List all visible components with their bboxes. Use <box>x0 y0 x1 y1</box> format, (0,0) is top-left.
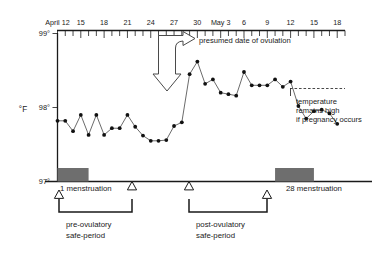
data-point <box>195 60 199 64</box>
post-ovulatory-start-marker-icon <box>184 182 193 190</box>
data-point <box>157 139 161 143</box>
data-point <box>71 129 75 133</box>
x-tick-label: 15 <box>310 18 318 27</box>
y-axis <box>53 33 58 182</box>
x-tick-label: 6 <box>242 18 246 27</box>
data-point <box>219 91 223 95</box>
x-tick-label: 18 <box>100 18 108 27</box>
x-tick-label: 30 <box>193 18 201 27</box>
data-point <box>133 125 137 129</box>
post-ovulatory-label-line1: post-ovulatory <box>196 220 245 229</box>
data-point <box>126 113 130 117</box>
menstruation-label-left: 1 menstruation <box>60 184 112 193</box>
data-point <box>258 83 262 87</box>
data-point <box>87 133 91 137</box>
ovulation-annotation-label: presumed date of ovulation <box>199 36 291 45</box>
x-tick-label: 18 <box>333 18 341 27</box>
pregnancy-note-leader <box>290 89 345 97</box>
data-point <box>110 126 114 130</box>
x-tick-label: 27 <box>170 18 178 27</box>
data-point <box>203 82 207 86</box>
pregnancy-note-line3: if pregnancy occurs <box>296 115 362 124</box>
menstruation-bar <box>58 168 89 182</box>
data-point <box>281 85 285 89</box>
data-point <box>273 77 277 81</box>
y-label-98: 98° <box>39 103 50 112</box>
post-ovulatory-bracket <box>184 182 271 213</box>
x-tick-label: 12 <box>287 18 295 27</box>
data-point <box>141 134 145 138</box>
chart-canvas: April 12151821242730May 369121518 99° 98… <box>0 0 380 253</box>
data-point <box>172 124 176 128</box>
pregnancy-note-line2: remains high <box>296 106 339 115</box>
post-ovulatory-label-line2: safe-period <box>196 231 235 240</box>
x-axis-tick-labels: April 12151821242730May 369121518 <box>45 18 341 27</box>
menstruation-bar <box>275 168 314 182</box>
data-point <box>242 70 246 74</box>
y-axis-title: °F <box>19 105 27 114</box>
data-point <box>79 113 83 117</box>
pre-ovulatory-label-line2: safe-period <box>66 231 105 240</box>
data-point <box>227 92 231 96</box>
pregnancy-note-line1: temperature <box>296 97 337 106</box>
data-point <box>149 139 153 143</box>
x-tick-label: 24 <box>147 18 155 27</box>
x-tick-label: 15 <box>77 18 85 27</box>
x-tick-label: 21 <box>123 18 131 27</box>
x-tick-label: April 12 <box>45 18 69 27</box>
data-point <box>289 80 293 84</box>
data-point <box>94 113 98 117</box>
data-point <box>188 72 192 76</box>
x-tick-label: May 3 <box>211 18 231 27</box>
data-point <box>63 119 67 123</box>
data-point <box>102 133 106 137</box>
data-point <box>180 120 184 124</box>
data-point <box>164 138 168 142</box>
pre-ovulatory-label-line1: pre-ovulatory <box>66 220 112 229</box>
data-point <box>211 77 215 81</box>
data-point <box>56 119 60 123</box>
pre-ovulatory-end-marker-icon <box>127 182 136 190</box>
post-ovulatory-end-marker-icon <box>262 190 271 198</box>
data-point <box>118 126 122 130</box>
data-point <box>234 94 238 98</box>
y-label-99: 99° <box>39 29 50 38</box>
data-point <box>250 83 254 87</box>
bbt-chart: April 12151821242730May 369121518 99° 98… <box>0 0 380 253</box>
ovulation-arrow-icon <box>153 32 195 92</box>
data-point <box>265 83 269 87</box>
menstruation-bars <box>58 168 314 182</box>
menstruation-label-right: 28 menstruation <box>286 184 342 193</box>
x-tick-label: 9 <box>265 18 269 27</box>
